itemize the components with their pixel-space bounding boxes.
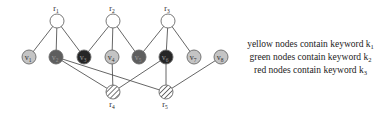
- node-label-r1: r1: [53, 4, 59, 14]
- node-label-r3: r3: [164, 4, 170, 14]
- node-circle-r3: [161, 14, 175, 28]
- node-circle-r4: [106, 85, 120, 99]
- legend-green-text: green nodes contain keyword k: [250, 52, 369, 62]
- legend-green-subscript: 2: [368, 56, 371, 63]
- legend-red-subscript: 3: [364, 69, 367, 76]
- node-r3: r3: [161, 4, 175, 28]
- node-label-r5: r5: [162, 100, 168, 110]
- node-label-r2: r2: [109, 4, 115, 14]
- node-v5: v5: [132, 50, 146, 64]
- node-label-r4: r4: [109, 100, 115, 110]
- node-r2: r2: [106, 4, 120, 28]
- legend-red: red nodes contain keyword k3: [236, 65, 385, 78]
- legend: yellow nodes contain keyword k1 green no…: [236, 39, 385, 78]
- nodes-group: r1r2r3v1v2v3v4v5v6v7v8r4r5: [22, 4, 228, 110]
- legend-yellow: yellow nodes contain keyword k1: [236, 39, 385, 52]
- node-v7: v7: [187, 50, 201, 64]
- node-v2: v2: [49, 50, 63, 64]
- node-v6: v6: [159, 50, 173, 64]
- legend-yellow-subscript: 1: [371, 43, 374, 50]
- node-circle-r5: [159, 85, 173, 99]
- node-v3: v3: [77, 50, 91, 64]
- node-r5: r5: [159, 85, 173, 110]
- node-r4: r4: [106, 85, 120, 110]
- node-circle-r2: [106, 14, 120, 28]
- node-v4: v4: [105, 50, 119, 64]
- keyword-graph-diagram: r1r2r3v1v2v3v4v5v6v7v8r4r5: [0, 0, 235, 114]
- legend-yellow-text: yellow nodes contain keyword k: [247, 39, 370, 49]
- node-v1: v1: [22, 50, 36, 64]
- legend-green: green nodes contain keyword k2: [236, 52, 385, 65]
- node-v8: v8: [214, 50, 228, 64]
- node-r1: r1: [50, 4, 64, 28]
- legend-red-text: red nodes contain keyword k: [254, 65, 364, 75]
- node-circle-r1: [50, 14, 64, 28]
